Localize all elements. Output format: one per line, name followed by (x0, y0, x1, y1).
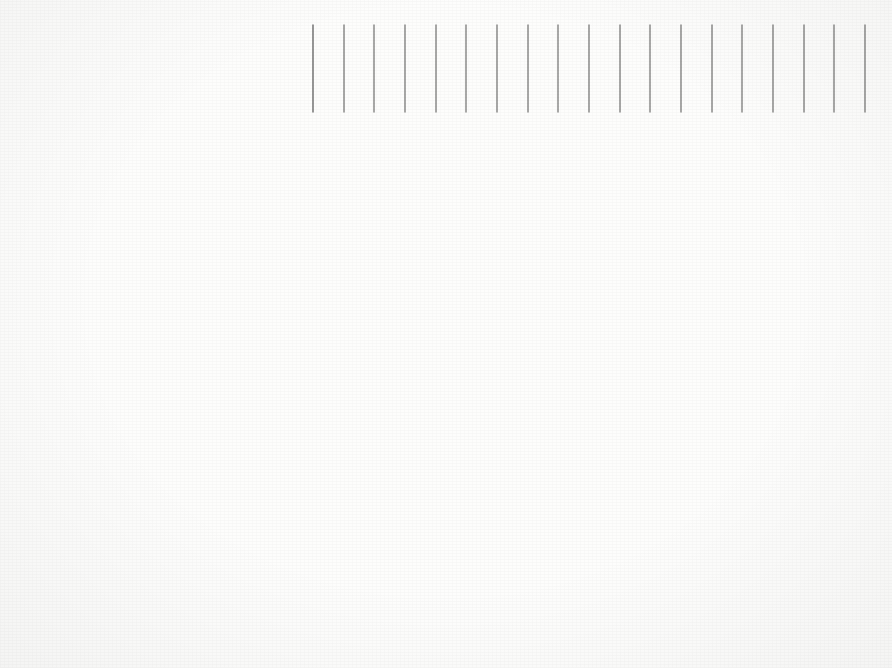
perspective-grid-canvas: One-Point Perspective Room Grid Left wal… (0, 0, 892, 668)
perspective-grid-drawing (0, 0, 892, 668)
paper-background (0, 0, 892, 668)
